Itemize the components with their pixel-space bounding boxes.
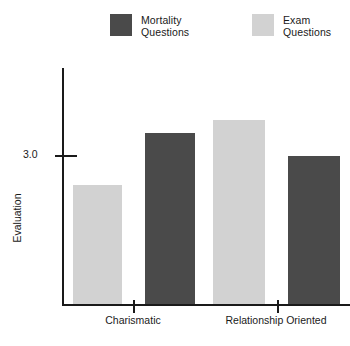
x-axis-line [62,304,350,306]
y-axis-tick-label-3.0: 3.0 [23,148,38,160]
bar-relationship-mortality [288,156,340,304]
x-axis-tick-charismatic [133,300,135,313]
y-axis-title: Evaluation [11,178,23,258]
bar-chart: Mortality Questions Exam Questions 3.0 C… [0,0,350,346]
bar-charismatic-mortality [145,133,195,304]
x-axis-tick-relationship-oriented [277,300,279,313]
bar-relationship-exam [213,120,265,304]
bar-charismatic-exam [73,185,122,304]
plot-area: 3.0 Charismatic Relationship Oriented Ev… [0,0,350,346]
y-axis-line [62,68,64,306]
x-axis-label-charismatic: Charismatic [58,314,208,326]
x-axis-label-relationship-oriented: Relationship Oriented [200,314,350,326]
y-axis-tick-3.0 [55,155,77,157]
